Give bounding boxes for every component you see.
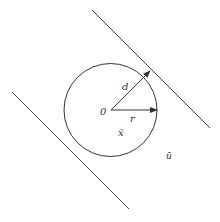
d-vector-arrow bbox=[111, 71, 150, 110]
origin-label: 0 bbox=[100, 106, 107, 117]
r-label: r bbox=[130, 113, 136, 124]
u-bar-label: ū bbox=[166, 151, 172, 161]
diagram-canvas: 0 d r x̄ ū bbox=[0, 0, 220, 222]
x-bar-label: x̄ bbox=[118, 127, 124, 138]
d-label: d bbox=[122, 81, 128, 92]
